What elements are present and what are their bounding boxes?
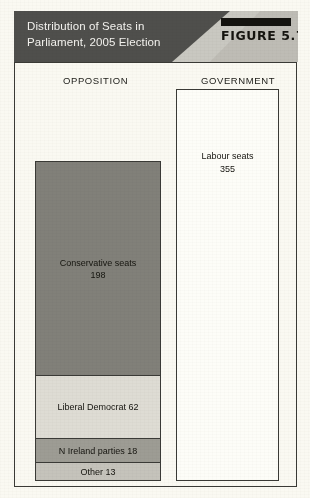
figure-number-label: FIGURE 5.7 xyxy=(221,28,291,43)
chart-frame: OPPOSITION GOVERNMENT Conservative seats… xyxy=(14,62,297,487)
bar-segment-conservative: Conservative seats 198 xyxy=(36,162,160,375)
bar-segment-liberal-democrat: Liberal Democrat 62 xyxy=(36,375,160,438)
figure-title: Distribution of Seats in Parliament, 200… xyxy=(27,18,207,50)
column-heading-opposition: OPPOSITION xyxy=(63,75,128,86)
figure-container: Distribution of Seats in Parliament, 200… xyxy=(0,0,310,498)
bar-segment-n-ireland-parties: N Ireland parties 18 xyxy=(36,438,160,462)
bar-segment-labour-value: 355 xyxy=(220,163,235,176)
column-heading-government: GOVERNMENT xyxy=(201,75,275,86)
figure-header: Distribution of Seats in Parliament, 200… xyxy=(14,11,298,62)
figure-title-line-2: Parliament, 2005 Election xyxy=(27,34,207,50)
figure-label-accent-bar xyxy=(221,18,291,26)
figure-title-line-1: Distribution of Seats in xyxy=(27,18,207,34)
bar-segment-n-ireland-parties-label: N Ireland parties 18 xyxy=(59,445,138,457)
bar-segment-liberal-democrat-label: Liberal Democrat 62 xyxy=(57,401,138,413)
opposition-stacked-bar: Conservative seats 198 Liberal Democrat … xyxy=(35,161,161,481)
bar-segment-labour-label: Labour seats xyxy=(201,150,253,163)
bar-segment-conservative-label: Conservative seats xyxy=(60,257,137,269)
bar-segment-other-label: Other 13 xyxy=(80,466,115,478)
bar-segment-other: Other 13 xyxy=(36,462,160,480)
bar-segment-conservative-value: 198 xyxy=(90,269,105,281)
government-bar-labour: Labour seats 355 xyxy=(176,89,279,481)
